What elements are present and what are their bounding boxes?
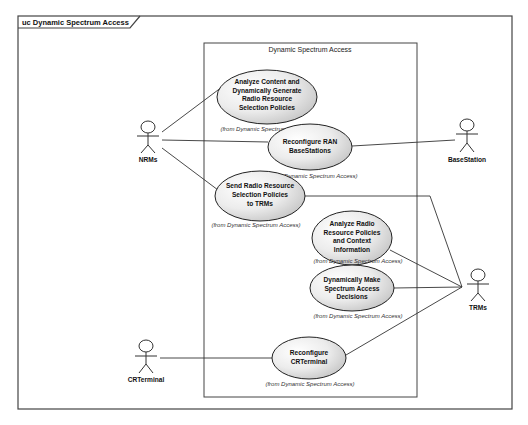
- stick-figure-icon: [456, 119, 478, 152]
- actor-label: CRTerminal: [128, 376, 165, 383]
- use-case-line: Dynamically Make: [324, 276, 381, 284]
- use-case-line: Radio Resource: [242, 95, 293, 102]
- use-case-line: Selection Policies: [239, 104, 295, 111]
- actor-label: NRMs: [139, 156, 158, 163]
- assoc-nrms-reconfigure-ran[interactable]: [162, 140, 268, 142]
- use-case-line: Decisions: [336, 293, 367, 300]
- use-case-line: Selection Policies: [232, 191, 288, 198]
- actor-basestation[interactable]: BaseStation: [448, 119, 486, 163]
- use-case-line: Reconfigure RAN: [283, 138, 338, 146]
- actor-crterminal[interactable]: CRTerminal: [128, 340, 165, 383]
- use-case-analyze-content[interactable]: Analyze Content and Dynamically Generate…: [217, 70, 317, 132]
- assoc-nrms-analyze-content[interactable]: [162, 87, 222, 132]
- use-case-analyze-radio[interactable]: Analyze Radio Resource Policies and Cont…: [312, 211, 403, 265]
- use-case-line: Analyze Radio: [329, 220, 374, 228]
- use-case-line: Analyze Content and: [234, 78, 299, 86]
- use-case-dynamically-make[interactable]: Dynamically Make Spectrum Access Decisio…: [310, 265, 403, 319]
- boundary-title: Dynamic Spectrum Access: [268, 46, 352, 54]
- use-case-line: Information: [334, 246, 370, 253]
- stick-figure-icon: [137, 121, 159, 153]
- use-case-line: to TRMs: [247, 200, 273, 207]
- stick-figure-icon: [135, 340, 157, 373]
- use-case-note: (from Dynamic Spectrum Access): [313, 313, 402, 319]
- use-case-line: Resource Policies: [324, 229, 381, 236]
- use-case-note: (from Dynamic Spectrum Access): [313, 258, 402, 264]
- use-case-diagram: uc Dynamic Spectrum Access Dynamic Spect…: [0, 0, 528, 425]
- use-case-note: (from Dynamic Spectrum Access): [265, 381, 354, 387]
- actor-nrms[interactable]: NRMs: [137, 121, 159, 163]
- use-case-note: (from Dynamic Spectrum Access): [211, 222, 300, 228]
- use-case-reconfigure-crterminal[interactable]: Reconfigure CRTerminal (from Dynamic Spe…: [265, 337, 354, 387]
- use-case-send-policies[interactable]: Send Radio Resource Selection Policies t…: [211, 171, 305, 228]
- assoc-reconfigure-ran-basestation[interactable]: [352, 140, 455, 146]
- frame-title: uc Dynamic Spectrum Access: [22, 18, 129, 27]
- actor-trms[interactable]: TRMs: [467, 269, 489, 311]
- use-case-line: and Context: [333, 237, 372, 244]
- use-case-line: Send Radio Resource: [226, 182, 294, 189]
- use-case-line: BaseStations: [289, 147, 331, 154]
- actor-label: BaseStation: [448, 156, 486, 163]
- assoc-nrms-send-policies[interactable]: [162, 148, 218, 190]
- stick-figure-icon: [467, 269, 489, 301]
- use-case-line: Reconfigure: [290, 349, 329, 357]
- assoc-dynamically-make-trms[interactable]: [394, 287, 462, 288]
- use-case-line: Spectrum Access: [324, 285, 379, 293]
- use-case-reconfigure-ran[interactable]: Reconfigure RAN BaseStations (from Dynam…: [268, 124, 358, 179]
- use-case-line: Dynamically Generate: [233, 87, 302, 95]
- use-case-line: CRTerminal: [291, 358, 328, 365]
- actor-label: TRMs: [469, 304, 487, 311]
